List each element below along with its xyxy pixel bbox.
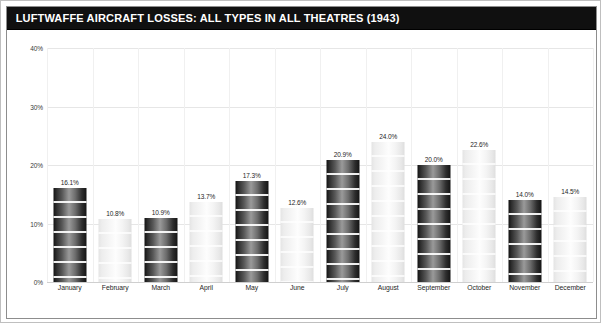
bar-series: 16.1%10.8%10.9%13.7%17.3%12.6%20.9%24.0%… [47,48,593,282]
x-axis-tick-label: February [93,284,139,291]
x-axis-tick-label: July [320,284,366,291]
bar[interactable] [372,142,405,282]
bar[interactable] [144,218,177,282]
bar-value-label: 20.9% [334,151,352,158]
bar-value-label: 14.0% [516,191,534,198]
bar-value-label: 16.1% [61,179,79,186]
bar-value-label: 12.6% [288,199,306,206]
x-axis-tick-label: October [457,284,503,291]
x-axis-tick-label: December [548,284,594,291]
bar-slot: 12.6% [275,48,321,282]
bar-slot: 20.0% [411,48,457,282]
bar-slot: 22.6% [457,48,503,282]
bar[interactable] [281,208,314,282]
y-axis-tick-label: 0% [9,279,43,286]
bar[interactable] [190,202,223,282]
page-title: LUFTWAFFE AIRCRAFT LOSSES: ALL TYPES IN … [7,12,400,24]
bar-value-label: 10.8% [106,210,124,217]
x-axis: JanuaryFebruaryMarchAprilMayJuneJulyAugu… [47,284,593,300]
bar-slot: 14.5% [548,48,594,282]
y-axis-tick-label: 20% [9,162,43,169]
bar-value-label: 14.5% [561,188,579,195]
y-axis-tick-label: 10% [9,220,43,227]
bar-value-label: 10.9% [152,209,170,216]
x-axis-tick-label: September [411,284,457,291]
x-axis-tick-label: June [275,284,321,291]
bar[interactable] [554,197,587,282]
x-axis-tick-label: January [47,284,93,291]
bar-value-label: 20.0% [425,156,443,163]
bar[interactable] [99,219,132,282]
bar-slot: 24.0% [366,48,412,282]
bar-value-label: 13.7% [197,193,215,200]
bar-slot: 20.9% [320,48,366,282]
gridline-horizontal [47,282,593,283]
bar[interactable] [463,150,496,282]
bar[interactable] [53,188,86,282]
bar-value-label: 22.6% [470,141,488,148]
bar-value-label: 17.3% [243,172,261,179]
bar[interactable] [326,160,359,282]
x-axis-tick-label: May [229,284,275,291]
bar[interactable] [508,200,541,282]
bar-slot: 17.3% [229,48,275,282]
x-axis-tick-label: November [502,284,548,291]
y-axis: 0%10%20%30%40% [7,48,43,282]
x-axis-tick-label: March [138,284,184,291]
bar-value-label: 24.0% [379,133,397,140]
plot-wrapper: 0%10%20%30%40% 16.1%10.8%10.9%13.7%17.3%… [7,30,596,318]
bar[interactable] [235,181,268,282]
gridline-vertical [593,48,594,282]
y-axis-tick-label: 30% [9,103,43,110]
x-axis-tick-label: April [184,284,230,291]
chart-title-bar: LUFTWAFFE AIRCRAFT LOSSES: ALL TYPES IN … [7,7,596,29]
bar-slot: 10.8% [93,48,139,282]
bar-slot: 14.0% [502,48,548,282]
chart-figure: LUFTWAFFE AIRCRAFT LOSSES: ALL TYPES IN … [0,0,601,323]
bar-slot: 16.1% [47,48,93,282]
bar-slot: 10.9% [138,48,184,282]
y-axis-tick-label: 40% [9,45,43,52]
bar-slot: 13.7% [184,48,230,282]
bar[interactable] [417,165,450,282]
x-axis-tick-label: August [366,284,412,291]
